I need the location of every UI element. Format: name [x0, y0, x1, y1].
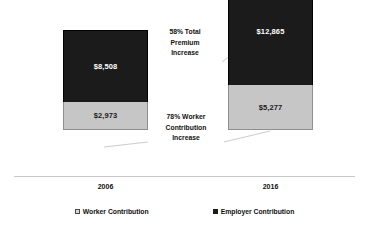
bar-segment-employer-2016[interactable]: $12,865: [228, 0, 313, 85]
annotation-line-1: 58% Total: [152, 27, 218, 38]
annotation-line-2: Premium: [152, 38, 218, 49]
bar-segment-label-worker-2016: $5,277: [259, 103, 283, 112]
annotation-line-1: 78% Worker: [150, 112, 222, 123]
legend-label-employer-contribution: Employer Contribution: [221, 208, 295, 215]
bar-segment-label-worker-2006: $2,973: [94, 111, 118, 120]
annotation-total-premium-increase: 58% Total Premium Increase: [152, 27, 218, 59]
chart-legend: Worker Contribution Employer Contributio…: [0, 201, 369, 221]
bar-segment-worker-2006[interactable]: $2,973: [63, 102, 148, 130]
x-axis-label-2016: 2016: [228, 183, 313, 190]
annotation-line-3: Increase: [150, 133, 222, 144]
annotation-worker-contribution-increase: 78% Worker Contribution Increase: [150, 112, 222, 144]
bar-segment-label-employer-2006: $8,508: [94, 62, 118, 71]
bar-segment-label-employer-2016: $12,865: [257, 27, 285, 36]
legend-label-worker-contribution: Worker Contribution: [83, 208, 149, 215]
bar-stack-2006[interactable]: $8,508 $2,973: [63, 30, 148, 130]
legend-item-employer-contribution[interactable]: Employer Contribution: [213, 208, 295, 215]
legend-swatch-icon-worker: [75, 209, 80, 214]
plot-area: $11,480 $8,508 $2,973 $18,142 $12,865 $5…: [0, 0, 369, 190]
x-axis-baseline: [14, 176, 355, 177]
x-axis-label-2006: 2006: [63, 183, 148, 190]
bar-stack-2016[interactable]: $12,865 $5,277: [228, 0, 313, 130]
annotation-line-2: Contribution: [150, 123, 222, 134]
bar-segment-worker-2016[interactable]: $5,277: [228, 85, 313, 130]
bar-segment-employer-2006[interactable]: $8,508: [63, 30, 148, 102]
legend-item-worker-contribution[interactable]: Worker Contribution: [75, 208, 149, 215]
annotation-line-3: Increase: [152, 48, 218, 59]
stacked-bar-chart: $11,480 $8,508 $2,973 $18,142 $12,865 $5…: [0, 0, 369, 236]
legend-swatch-icon-employer: [213, 209, 218, 214]
